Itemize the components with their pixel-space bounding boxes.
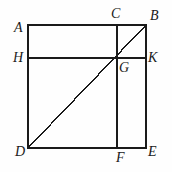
vertex-label-E: E — [148, 145, 157, 159]
diagonal-DB — [28, 25, 146, 148]
vertex-label-G: G — [119, 61, 129, 75]
vertex-label-K: K — [148, 51, 157, 65]
vertex-label-C: C — [111, 7, 120, 21]
geometry-figure: A B C D E F G H K — [0, 0, 172, 172]
figure-canvas — [0, 0, 172, 172]
vertex-label-H: H — [13, 51, 23, 65]
vertex-label-B: B — [150, 9, 159, 23]
vertex-label-F: F — [116, 151, 125, 165]
segments-group — [28, 25, 146, 148]
vertex-label-D: D — [15, 145, 25, 159]
vertex-label-A: A — [14, 21, 23, 35]
